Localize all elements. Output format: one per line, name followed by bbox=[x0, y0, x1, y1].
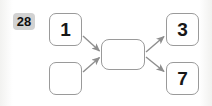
node-output-3[interactable]: 3 bbox=[166, 13, 199, 46]
node-input-1-label: 1 bbox=[60, 20, 71, 39]
problem-number-label: 28 bbox=[17, 15, 31, 28]
node-input-1[interactable]: 1 bbox=[49, 13, 82, 46]
node-output-3-label: 3 bbox=[177, 20, 188, 39]
problem-number-badge: 28 bbox=[13, 13, 35, 30]
flowchart-diagram: 28 1 3 7 bbox=[0, 0, 212, 106]
node-process-empty[interactable] bbox=[101, 39, 145, 70]
node-input-2-empty[interactable] bbox=[49, 62, 82, 95]
node-output-7[interactable]: 7 bbox=[166, 62, 199, 95]
node-output-7-label: 7 bbox=[177, 69, 188, 88]
